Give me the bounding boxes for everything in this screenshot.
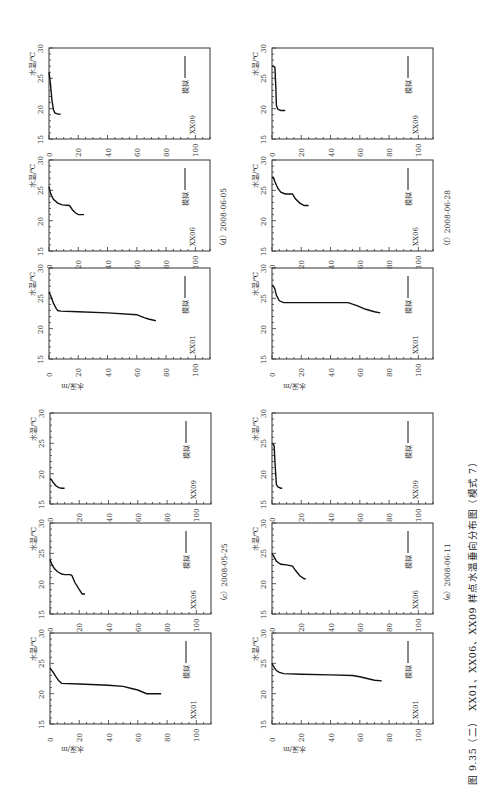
depth-tick-label: 40 (105, 148, 113, 157)
station-label: XX06 (190, 590, 198, 609)
temp-tick-label: 30 (260, 519, 268, 528)
panel-d-xx06: 02040608010015202530水温/℃模拟XX06 (49, 160, 210, 251)
depth-tick-label: 80 (386, 733, 394, 742)
temp-tick-label: 15 (37, 247, 45, 256)
depth-tick-label: 100 (192, 364, 200, 377)
depth-axis-label-bottom-right: 水深/m (283, 745, 306, 755)
temp-tick-label: 30 (260, 44, 268, 53)
depth-tick-label: 100 (193, 619, 201, 632)
temp-tick-label: 25 (37, 294, 45, 303)
depth-tick-label: 0 (269, 153, 277, 157)
temp-tick-label: 25 (38, 439, 46, 448)
depth-tick-label: 60 (134, 148, 142, 157)
simulated-temp-line (272, 443, 282, 488)
station-label: XX09 (189, 115, 197, 134)
depth-tick-label: 0 (269, 373, 277, 377)
legend-label: 模拟 (403, 555, 413, 569)
temp-tick-label: 15 (260, 247, 268, 256)
depth-tick-label: 40 (106, 513, 114, 522)
panel-f-xx01: 02040608010015202530水温/℃模拟XX01 (272, 268, 433, 359)
depth-tick-label: 80 (386, 368, 394, 377)
temp-tick-label: 25 (260, 659, 268, 668)
legend-label: 模拟 (180, 80, 190, 94)
depth-tick-label: 100 (415, 619, 423, 632)
simulated-temp-line (272, 177, 309, 206)
temp-tick-label: 30 (260, 264, 268, 273)
depth-tick-label: 20 (298, 733, 306, 742)
figure-caption: 图 9.35（二） XX01、XX06、XX09 样点水温垂向分布图（模式 7） (465, 457, 479, 785)
depth-tick-label: 0 (47, 518, 55, 522)
depth-tick-label: 100 (415, 364, 423, 377)
depth-tick-label: 20 (75, 368, 83, 377)
depth-tick-label: 20 (76, 733, 84, 742)
depth-tick-label: 60 (357, 513, 365, 522)
depth-tick-label: 60 (357, 623, 365, 632)
temp-tick-label: 25 (38, 659, 46, 668)
depth-tick-label: 100 (193, 729, 201, 742)
simulated-temp-line (272, 663, 382, 681)
depth-tick-label: 40 (328, 623, 336, 632)
panel-c-xx06: 02040608010015202530水温/℃模拟XX06 (50, 523, 211, 614)
temp-tick-label: 25 (260, 294, 268, 303)
temp-tick-label: 25 (260, 186, 268, 195)
depth-tick-label: 20 (76, 513, 84, 522)
temp-tick-label: 30 (37, 156, 45, 165)
depth-tick-label: 80 (164, 623, 172, 632)
temp-axis-label: 水温/℃ (27, 164, 37, 188)
temp-tick-label: 25 (37, 186, 45, 195)
temp-tick-label: 20 (260, 580, 268, 589)
temp-tick-label: 15 (260, 610, 268, 619)
temp-axis-label: 水温/℃ (250, 637, 260, 661)
simulated-temp-line (49, 292, 156, 321)
depth-tick-label: 0 (46, 373, 54, 377)
station-label: XX01 (189, 335, 197, 354)
depth-tick-label: 80 (386, 623, 394, 632)
legend-label: 模拟 (180, 192, 190, 206)
temp-tick-label: 15 (37, 355, 45, 364)
depth-tick-label: 100 (415, 509, 423, 522)
temp-tick-label: 25 (260, 549, 268, 558)
simulated-temp-line (272, 285, 380, 313)
depth-tick-label: 100 (415, 256, 423, 269)
simulated-temp-line (49, 187, 84, 215)
temp-tick-label: 25 (37, 74, 45, 83)
panel-d-xx09: 02040608010015202530水温/℃模拟XX09 (49, 48, 210, 139)
temp-axis-label: 水温/℃ (27, 272, 37, 296)
depth-tick-label: 60 (134, 368, 142, 377)
panel-e-xx09: 02040608010015202530水温/℃模拟XX09 (272, 413, 433, 504)
temp-tick-label: 30 (260, 156, 268, 165)
legend-label: 模拟 (181, 445, 191, 459)
temp-axis-label: 水温/℃ (250, 52, 260, 76)
temp-axis-label: 水温/℃ (28, 527, 38, 551)
depth-tick-label: 20 (298, 148, 306, 157)
station-label: XX06 (412, 227, 420, 246)
temp-tick-label: 15 (38, 500, 46, 509)
depth-tick-label: 0 (269, 628, 277, 632)
station-label: XX09 (412, 115, 420, 134)
depth-tick-label: 60 (357, 733, 365, 742)
temp-tick-label: 15 (260, 720, 268, 729)
depth-tick-label: 20 (76, 623, 84, 632)
depth-axis-label-top-left: 水深/m (61, 382, 84, 392)
temp-tick-label: 20 (38, 470, 46, 479)
temp-axis-label: 水温/℃ (27, 52, 37, 76)
temp-tick-label: 20 (38, 690, 46, 699)
date-label-e: （e）2008-06-11 (441, 543, 452, 605)
depth-tick-label: 80 (386, 513, 394, 522)
legend-label: 模拟 (181, 665, 191, 679)
temp-tick-label: 30 (38, 629, 46, 638)
panel-f-xx06: 02040608010015202530水温/℃模拟XX06 (272, 160, 433, 251)
temp-axis-label: 水温/℃ (28, 637, 38, 661)
temp-tick-label: 20 (37, 217, 45, 226)
depth-tick-label: 40 (328, 733, 336, 742)
depth-tick-label: 60 (135, 733, 143, 742)
temp-axis-label: 水温/℃ (250, 272, 260, 296)
temp-tick-label: 20 (260, 105, 268, 114)
legend-label: 模拟 (403, 300, 413, 314)
depth-tick-label: 80 (163, 368, 171, 377)
simulated-temp-line (50, 668, 161, 694)
temp-tick-label: 15 (38, 720, 46, 729)
depth-tick-label: 100 (193, 509, 201, 522)
temp-axis-label: 水温/℃ (28, 417, 38, 441)
simulated-temp-line (50, 479, 65, 489)
